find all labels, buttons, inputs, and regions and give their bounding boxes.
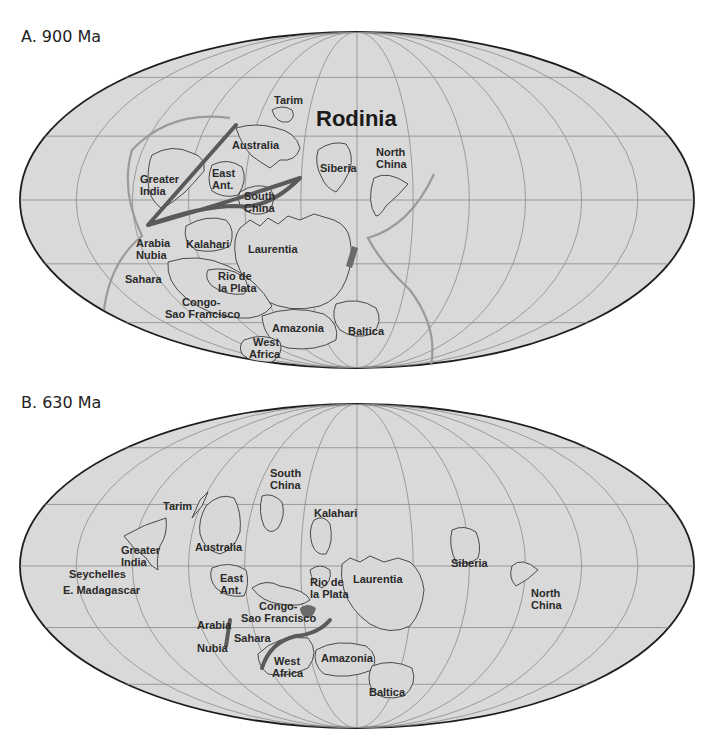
label-sahara: Sahara: [234, 632, 272, 644]
label-tarim: Tarim: [274, 94, 303, 106]
label-greater-india-2: India: [140, 185, 167, 197]
label-greater-india-2: India: [121, 556, 148, 568]
label-australia: Australia: [232, 139, 280, 151]
label-west-africa-1: West: [274, 655, 300, 667]
label-south-china-1: South: [244, 190, 275, 202]
label-kalahari: Kalahari: [186, 238, 229, 250]
label-laurentia: Laurentia: [248, 243, 298, 255]
label-south-china-1: South: [270, 467, 301, 479]
paleogeographic-maps: Rodinia Tarim Australia Greater India Ea…: [0, 0, 711, 740]
label-australia: Australia: [195, 541, 243, 553]
label-greater-india-1: Greater: [121, 544, 161, 556]
label-congo-1: Congo-: [259, 600, 298, 612]
label-kalahari: Kalahari: [314, 507, 357, 519]
label-tarim: Tarim: [163, 500, 192, 512]
label-rio-de-la-plata-2: la Plata: [218, 282, 257, 294]
label-south-china-2: China: [244, 202, 275, 214]
label-east-ant-1: East: [212, 167, 236, 179]
label-rodinia: Rodinia: [316, 106, 397, 131]
label-baltica: Baltica: [369, 686, 406, 698]
label-east-ant-2: Ant.: [220, 584, 241, 596]
label-siberia: Siberia: [320, 162, 358, 174]
map-panel-b: South China Tarim Kalahari Australia Gre…: [20, 404, 694, 728]
label-siberia: Siberia: [451, 557, 489, 569]
label-seychelles: Seychelles: [69, 568, 126, 580]
label-north-china-1: North: [531, 587, 561, 599]
label-congo-1: Congo-: [182, 296, 221, 308]
label-sahara: Sahara: [125, 273, 163, 285]
label-amazonia: Amazonia: [272, 322, 325, 334]
label-rio-de-la-plata-1: Rio de: [310, 576, 344, 588]
label-laurentia: Laurentia: [353, 573, 403, 585]
label-congo-2: Sao Francisco: [241, 612, 316, 624]
label-amazonia: Amazonia: [321, 652, 374, 664]
label-baltica: Baltica: [348, 325, 385, 337]
label-west-africa-2: Africa: [272, 667, 304, 679]
label-rio-de-la-plata-1: Rio de: [218, 270, 252, 282]
label-arabia: Arabia: [197, 619, 232, 631]
label-south-china-2: China: [270, 479, 301, 491]
label-nubia: Nubia: [197, 642, 228, 654]
label-east-ant-1: East: [220, 572, 244, 584]
label-rio-de-la-plata-2: la Plata: [310, 588, 349, 600]
label-arabia-nubia-2: Nubia: [136, 249, 167, 261]
label-west-africa-2: Africa: [249, 348, 281, 360]
label-east-ant-2: Ant.: [212, 179, 233, 191]
label-e-madagascar: E. Madagascar: [63, 584, 141, 596]
label-north-china-2: China: [376, 158, 407, 170]
label-north-china-2: China: [531, 599, 562, 611]
label-north-china-1: North: [376, 146, 406, 158]
map-panel-a: Rodinia Tarim Australia Greater India Ea…: [20, 32, 694, 370]
label-west-africa-1: West: [253, 336, 279, 348]
label-congo-2: Sao Francisco: [165, 308, 240, 320]
label-greater-india-1: Greater: [140, 173, 180, 185]
label-arabia-nubia-1: Arabia: [136, 237, 171, 249]
